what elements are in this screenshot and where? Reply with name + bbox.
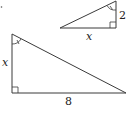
- small-horizontal-leg-label: x: [86, 30, 93, 43]
- large-vertical-leg-label: x: [2, 56, 9, 69]
- small-triangle: 2 x: [60, 1, 126, 43]
- large-right-angle-icon: [12, 87, 18, 93]
- small-triangle-outline: [60, 1, 116, 28]
- large-angle-arc-icon: [12, 39, 21, 44]
- large-triangle: x 8: [2, 34, 126, 108]
- large-triangle-outline: [12, 34, 126, 93]
- small-right-angle-icon: [110, 22, 116, 28]
- small-vertical-leg-label: 2: [119, 9, 126, 22]
- similar-triangles-diagram: 2 x x 8: [0, 0, 130, 129]
- large-horizontal-leg-label: 8: [65, 95, 72, 108]
- stray-dot: [1, 6, 3, 8]
